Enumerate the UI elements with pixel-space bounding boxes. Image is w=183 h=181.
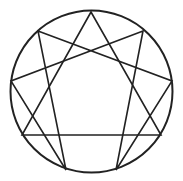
enneagram-diagram <box>0 0 183 181</box>
inner-triangle <box>22 12 161 135</box>
outer-circle <box>11 11 173 173</box>
